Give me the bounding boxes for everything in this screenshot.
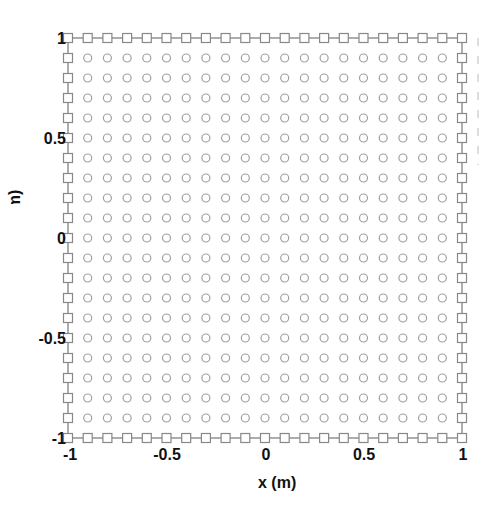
y-tick-neg1: -1 xyxy=(6,431,66,447)
x-tick-neg0.5: -0.5 xyxy=(137,447,197,463)
x-axis-label: x (m) xyxy=(258,474,296,492)
x-tick-0: 0 xyxy=(236,447,296,463)
y-tick-neg0.5: -0.5 xyxy=(6,331,66,347)
y-tick-0: 0 xyxy=(6,231,66,247)
y-tick-0.5: 0.5 xyxy=(6,131,66,147)
x-tick-0.5: 0.5 xyxy=(334,447,394,463)
x-tick-1: 1 xyxy=(433,447,493,463)
x-tick-neg1: -1 xyxy=(40,447,100,463)
boundary-line xyxy=(68,38,462,438)
scatter-plot xyxy=(0,0,501,514)
y-tick-1: 1 xyxy=(6,31,66,47)
interior-nodes xyxy=(84,54,447,422)
